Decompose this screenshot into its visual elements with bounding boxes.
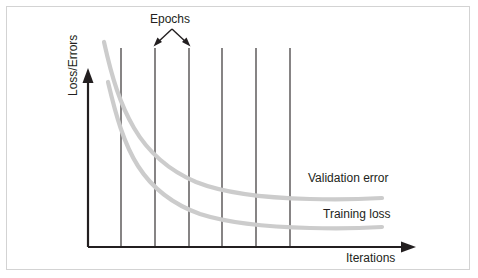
y-axis — [83, 68, 94, 247]
x-axis-arrowhead — [401, 242, 416, 253]
validation-error-label: Validation error — [308, 172, 388, 184]
x-axis-label: Iterations — [346, 252, 395, 264]
y-axis-label: Loss/Errors — [67, 35, 79, 96]
epochs-span-arrow — [154, 29, 191, 47]
training-loss-label: Training loss — [323, 208, 391, 220]
epochs-annotation-label: Epochs — [150, 13, 190, 25]
y-axis-arrowhead — [83, 68, 94, 83]
figure-container: Epochs Loss/Errors Iterations Validation… — [0, 0, 478, 278]
